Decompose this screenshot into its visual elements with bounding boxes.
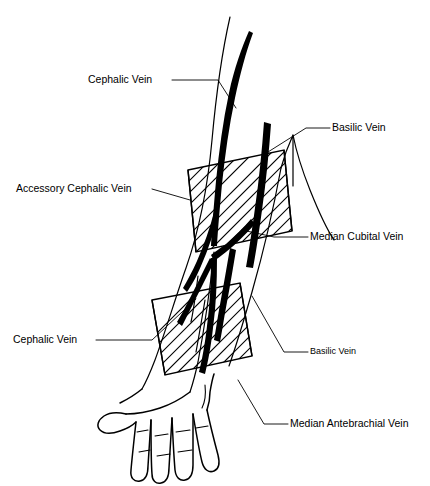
leader-basilic-vein-lower	[252, 296, 308, 352]
leader-cephalic-vein-upper	[172, 80, 236, 108]
basilic-vein-stroke	[246, 122, 271, 268]
leader-median-antebrachial-vein	[238, 380, 288, 424]
leader-accessory-cephalic-vein	[152, 189, 190, 200]
label-cephalic-vein-upper: Cephalic Vein	[88, 73, 152, 85]
label-median-cubital-vein: Median Cubital Vein	[310, 230, 404, 242]
label-group: Cephalic Vein Accessory Cephalic Vein Ce…	[13, 73, 409, 429]
label-basilic-vein-lower: Basilic Vein	[310, 346, 356, 356]
hand-drawing	[98, 374, 219, 483]
leader-basilic-vein-upper	[268, 128, 330, 152]
label-basilic-vein-upper: Basilic Vein	[332, 121, 386, 133]
label-accessory-cephalic-vein: Accessory Cephalic Vein	[16, 182, 132, 194]
label-cephalic-vein-lower: Cephalic Vein	[13, 333, 77, 345]
label-median-antebrachial-vein: Median Antebrachial Vein	[290, 417, 409, 429]
anatomical-figure: Cephalic Vein Accessory Cephalic Vein Ce…	[0, 0, 430, 486]
vein-branch-right	[214, 248, 236, 342]
